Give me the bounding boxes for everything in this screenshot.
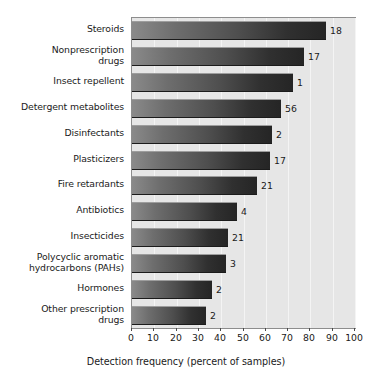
x-tick-label: 10	[147, 332, 159, 343]
category-label: Insect repellent	[0, 76, 124, 87]
bar-value-label: 2	[276, 125, 282, 144]
bar-value-label: 2	[210, 306, 216, 325]
x-tick-mark	[332, 328, 333, 331]
bar	[132, 151, 270, 170]
bar	[132, 228, 228, 247]
category-label: Detergent metabolites	[0, 102, 124, 113]
x-tick-mark	[287, 328, 288, 331]
bar	[132, 306, 206, 325]
x-tick-label: 80	[303, 332, 315, 343]
bar-value-label: 21	[232, 228, 244, 247]
x-tick-label: 50	[237, 332, 249, 343]
x-tick-label: 70	[281, 332, 293, 343]
x-tick-mark	[243, 328, 244, 331]
gridline	[355, 18, 356, 328]
category-axis: SteroidsNonprescription drugsInsect repe…	[0, 17, 128, 327]
category-label: Insecticides	[0, 231, 124, 242]
x-tick-label: 100	[345, 332, 363, 343]
x-tick-mark	[309, 328, 310, 331]
category-label: Disinfectants	[0, 128, 124, 139]
x-axis: 0102030405060708090100	[131, 328, 354, 346]
x-tick-label: 0	[128, 332, 134, 343]
bar	[132, 125, 272, 144]
bar-value-label: 3	[230, 254, 236, 273]
category-label: Nonprescription drugs	[0, 45, 124, 66]
bar	[132, 202, 237, 221]
x-tick-mark	[354, 328, 355, 331]
x-tick-mark	[198, 328, 199, 331]
category-label: Steroids	[0, 24, 124, 35]
bar-value-label: 21	[261, 176, 273, 195]
category-label: Antibiotics	[0, 205, 124, 216]
x-tick-mark	[153, 328, 154, 331]
plot-area: 181715621721421322	[131, 17, 356, 329]
bar	[132, 73, 293, 92]
x-tick-label: 90	[326, 332, 338, 343]
category-label: Plasticizers	[0, 154, 124, 165]
x-tick-mark	[131, 328, 132, 331]
x-tick-label: 40	[214, 332, 226, 343]
bar-value-label: 4	[241, 202, 247, 221]
bars-layer: 181715621721421322	[132, 18, 355, 328]
bar	[132, 21, 326, 40]
x-tick-mark	[265, 328, 266, 331]
bar	[132, 47, 304, 66]
bar-value-label: 17	[274, 151, 286, 170]
x-tick-mark	[220, 328, 221, 331]
x-tick-mark	[176, 328, 177, 331]
detection-frequency-bar-chart: SteroidsNonprescription drugsInsect repe…	[0, 0, 372, 383]
category-label: Other prescription drugs	[0, 304, 124, 325]
bar-value-label: 1	[297, 73, 303, 92]
bar-value-label: 17	[308, 47, 320, 66]
x-tick-label: 30	[192, 332, 204, 343]
bar-value-label: 2	[216, 280, 222, 299]
category-label: Fire retardants	[0, 179, 124, 190]
bar	[132, 99, 281, 118]
x-tick-label: 60	[259, 332, 271, 343]
bar	[132, 280, 212, 299]
bar	[132, 176, 257, 195]
bar-value-label: 56	[285, 99, 297, 118]
x-axis-title: Detection frequency (percent of samples)	[0, 356, 372, 367]
bar-value-label: 18	[330, 21, 342, 40]
x-tick-label: 20	[170, 332, 182, 343]
category-label: Polycyclic aromatic hydrocarbons (PAHs)	[0, 252, 124, 273]
category-label: Hormones	[0, 283, 124, 294]
bar	[132, 254, 226, 273]
